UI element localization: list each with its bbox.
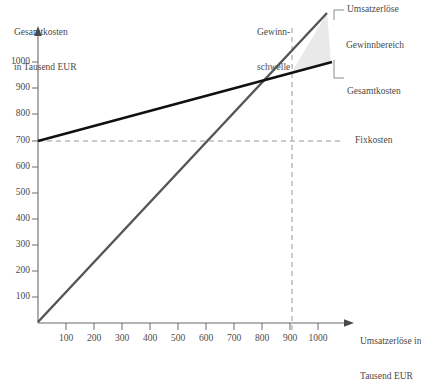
- y-tick-label-700: 700: [6, 135, 30, 145]
- gesamtkosten-leader-bracket: [334, 60, 344, 78]
- y-axis-title-line1: Gesamtkosten: [14, 27, 77, 39]
- y-tick-label-300: 300: [6, 239, 30, 249]
- y-tick-label-500: 500: [6, 187, 30, 197]
- gewinnschwelle-annotation-line2: schwelle: [257, 62, 290, 74]
- gewinnschwelle-annotation-line1: Gewinn-: [257, 27, 290, 39]
- x-tick-label-500: 500: [164, 333, 192, 343]
- gewinnschwelle-annotation: Gewinn- schwelle: [257, 4, 290, 96]
- x-tick-label-600: 600: [192, 333, 220, 343]
- y-tick-label-900: 900: [6, 82, 30, 92]
- fixkosten-annotation: Fixkosten: [355, 135, 392, 147]
- x-axis-title: Umsatzerlöse in Tausend EUR: [360, 313, 421, 383]
- x-tick-label-900: 900: [276, 333, 304, 343]
- y-tick-label-400: 400: [6, 213, 30, 223]
- x-axis-title-line2: Tausend EUR: [360, 371, 421, 383]
- x-tick-label-400: 400: [136, 333, 164, 343]
- umsatzerloese-leader-bracket: [334, 10, 344, 20]
- x-tick-label-300: 300: [108, 333, 136, 343]
- x-axis-arrow-icon: [344, 319, 354, 327]
- y-axis-ticks: [32, 62, 38, 297]
- y-tick-label-800: 800: [6, 108, 30, 118]
- y-tick-label-100: 100: [6, 291, 30, 301]
- x-tick-label-200: 200: [80, 333, 108, 343]
- y-tick-label-600: 600: [6, 161, 30, 171]
- y-tick-label-1000: 1000: [6, 56, 30, 66]
- x-axis-ticks: [66, 323, 318, 330]
- x-tick-label-100: 100: [52, 333, 80, 343]
- gewinnbereich-annotation: Gewinnbereich: [346, 40, 404, 52]
- x-tick-label-1000: 1000: [303, 333, 333, 343]
- gesamtkosten-annotation: Gesamtkosten: [347, 86, 401, 98]
- x-tick-label-800: 800: [248, 333, 276, 343]
- x-axis-title-line1: Umsatzerlöse in: [360, 336, 421, 348]
- y-tick-label-200: 200: [6, 265, 30, 275]
- x-tick-label-700: 700: [220, 333, 248, 343]
- umsatzerloese-annotation: Umsatzerlöse: [347, 4, 399, 16]
